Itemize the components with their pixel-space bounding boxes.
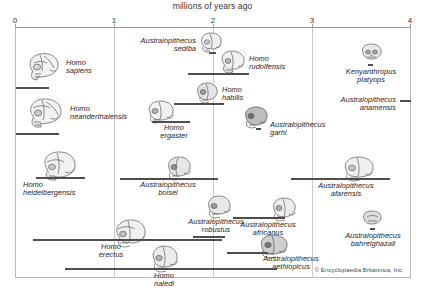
gridline-3mya — [312, 28, 313, 278]
label-homo-erectus: Homo erectus — [99, 243, 124, 260]
range-bar-australopithecus-afarensis — [291, 178, 390, 180]
label-australopithecus-sediba: Australopithecus sediba — [141, 37, 196, 54]
label-kenyanthropus-platyops: Kenyanthropus platyops — [346, 68, 396, 85]
plot-area: Homo sapiens Australopithecus sediba — [15, 28, 411, 278]
axis-title: millions of years ago — [0, 1, 425, 11]
skull-icon-australopithecus-bahrelghazali — [357, 208, 387, 230]
range-bar-australopithecus-bahrelghazali — [370, 228, 375, 230]
label-australopithecus-anamensis: Australopithecus anamensis — [341, 96, 396, 113]
skull-icon-homo-neanderthalensis — [22, 96, 68, 132]
skull-icon-kenyanthropus-platyops — [357, 41, 387, 65]
range-bar-homo-heidelbergensis — [36, 177, 85, 179]
range-bar-homo-neanderthalensis — [16, 133, 59, 135]
label-homo-neanderthalensis: Homo neanderthalensis — [70, 105, 127, 122]
label-australopithecus-robustus: Australopithecus robustus — [188, 218, 243, 235]
range-bar-australopithecus-robustus — [193, 236, 225, 238]
label-australopithecus-afarensis: Australopithecus afarensis — [318, 182, 373, 199]
label-homo-naledi: Homo naledi — [154, 272, 174, 289]
copyright-text: Encyclopaedia Britannica, Inc — [321, 266, 402, 273]
range-bar-australopithecus-garhi — [256, 128, 261, 130]
label-australopithecus-garhi: Australopithecus garhi — [270, 121, 325, 138]
range-bar-homo-naledi — [65, 268, 277, 270]
range-bar-australopithecus-aethiopicus — [227, 252, 268, 254]
copyright-credit: © Encyclopaedia Britannica, Inc — [315, 266, 402, 273]
range-bar-australopithecus-sediba — [209, 52, 216, 54]
range-bar-homo-habilis — [174, 103, 224, 105]
label-australopithecus-boisei: Australopithecus boisei — [140, 181, 195, 198]
skull-icon-homo-sapiens — [22, 50, 64, 84]
hominin-timeline-chart: millions of years ago 0 1 2 3 4 — [0, 0, 425, 295]
range-bar-homo-erectus — [33, 239, 222, 241]
range-bar-australopithecus-africanus — [233, 217, 285, 219]
copyright-symbol: © — [315, 266, 320, 273]
range-bar-kenyanthropus-platyops — [368, 64, 373, 66]
label-homo-heidelbergensis: Homo heidelbergensis — [23, 181, 76, 198]
range-bar-homo-sapiens — [16, 87, 49, 89]
label-australopithecus-bahrelghazali: Australopithecus bahrelghazali — [345, 232, 400, 249]
label-homo-rudolfensis: Homo rudolfensis — [249, 55, 285, 72]
label-homo-habilis: Homo habilis — [222, 86, 243, 103]
label-homo-sapiens: Homo sapiens — [66, 59, 92, 76]
label-homo-ergaster: Homo ergaster — [160, 124, 188, 141]
range-bar-homo-rudolfensis — [188, 73, 249, 75]
range-bar-australopithecus-anamensis — [400, 100, 411, 102]
